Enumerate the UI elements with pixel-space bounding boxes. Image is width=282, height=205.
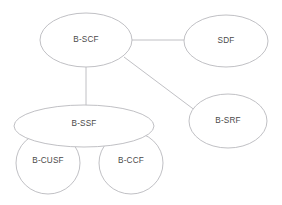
edge-bscf-to-bsrf [124,57,196,111]
node-sdf[interactable]: SDF [184,15,268,67]
sdf-label: SDF [218,36,235,45]
diagram-canvas: B-CUSF B-CCF B-SSF B-SCF SDF B-SRF [0,0,282,205]
b-scf-label: B-SCF [73,35,98,44]
b-srf-label: B-SRF [215,116,240,125]
node-layer-upper: B-SSF B-SCF SDF B-SRF [14,13,268,148]
b-cusf-label: B-CUSF [32,156,63,165]
node-b-scf[interactable]: B-SCF [40,13,132,67]
node-b-srf[interactable]: B-SRF [189,94,267,148]
b-ccf-label: B-CCF [118,156,144,165]
diagram-svg: B-CUSF B-CCF B-SSF B-SCF SDF B-SRF [0,0,282,205]
node-b-ssf[interactable]: B-SSF [14,105,154,147]
b-ssf-label: B-SSF [72,119,97,128]
